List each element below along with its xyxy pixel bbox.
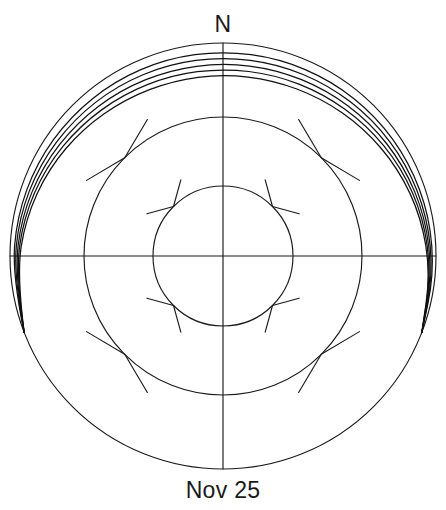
azimuth-tick-45-altitude-30 [321, 158, 359, 181]
azimuth-tick-225-altitude-30 [125, 354, 148, 392]
azimuth-tick-315-altitude-30 [125, 120, 148, 158]
azimuth-tick-135-altitude-30 [299, 354, 322, 392]
sun-path-diagram: N Nov 25 [0, 0, 446, 510]
north-label: N [215, 11, 232, 37]
azimuth-tick-225-altitude-30 [87, 332, 125, 355]
azimuth-tick-315-altitude-30 [87, 158, 125, 181]
sun-path-svg: N Nov 25 [0, 0, 446, 510]
cardinal-axes [10, 43, 436, 469]
azimuth-tick-135-altitude-30 [321, 332, 359, 355]
sun-path-path-3 [17, 64, 430, 332]
date-label: Nov 25 [186, 477, 261, 503]
azimuth-tick-45-altitude-30 [299, 120, 322, 158]
